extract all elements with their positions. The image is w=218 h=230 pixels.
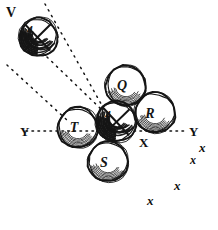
trajectory-path-upper xyxy=(45,4,104,109)
trajectory-path-lower xyxy=(7,65,68,121)
ball-ball-s: S xyxy=(87,141,128,183)
ball-label-object-ball-center: 4 xyxy=(104,108,111,120)
axis-label-x: X xyxy=(139,135,149,150)
ball-label-cue-ball-v: 4 xyxy=(26,23,33,35)
scatter-mark-1: x xyxy=(198,140,206,155)
ball-label-ball-q: Q xyxy=(117,78,127,93)
cue-ball-marker-label-v: V xyxy=(6,5,16,20)
scatter-mark-4: x xyxy=(189,153,196,167)
ball-label-ball-t: T xyxy=(70,120,80,135)
ball-cue-ball-v: 4 xyxy=(18,17,58,56)
scatter-mark-2: x xyxy=(173,178,181,193)
axis-label-right-y: Y xyxy=(189,124,199,139)
ball-object-ball-center: 4 xyxy=(95,101,136,143)
balls-group: 4QR4TS xyxy=(18,17,175,183)
axis-label-left-y: Y xyxy=(20,124,30,139)
diagram-canvas: 4QR4TS VYYX xxxx xyxy=(0,0,218,230)
trajectory-lines-group xyxy=(7,4,104,121)
billiards-diagram-figure: 4QR4TS VYYX xxxx xyxy=(0,0,218,230)
trajectory-path-mid xyxy=(47,57,104,112)
x-marks-group: xxxx xyxy=(146,140,206,208)
ball-label-ball-s: S xyxy=(100,155,108,170)
ball-label-ball-r: R xyxy=(144,106,154,121)
scatter-mark-3: x xyxy=(146,193,154,208)
ball-ball-t: T xyxy=(57,107,98,148)
